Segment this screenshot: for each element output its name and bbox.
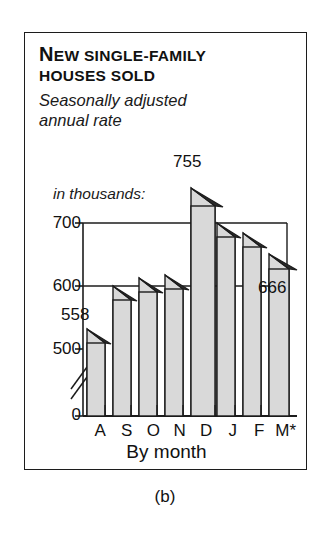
x-label-o: O <box>140 421 167 441</box>
y-tick-label-500: 500 <box>31 339 81 359</box>
x-axis-labels: A S O N D J F M* <box>87 421 299 441</box>
bar-N <box>165 275 189 416</box>
x-label-m: M* <box>273 421 300 441</box>
bar-A <box>87 329 111 416</box>
value-label-peak: 755 <box>173 152 201 172</box>
x-label-s: S <box>114 421 141 441</box>
x-label-d: D <box>193 421 220 441</box>
bar-S <box>113 286 137 416</box>
x-label-a: A <box>87 421 114 441</box>
y-tick-label-0: 0 <box>31 405 81 425</box>
value-label-last: 666 <box>258 278 286 298</box>
bar-F <box>243 233 267 416</box>
x-label-f: F <box>246 421 273 441</box>
x-axis-title: By month <box>25 441 308 463</box>
chart-panel: NEW SINGLE-FAMILY HOUSES SOLD Seasonally… <box>24 32 307 470</box>
bar-O <box>139 278 163 416</box>
figure-caption: (b) <box>0 487 330 507</box>
value-label-first: 558 <box>61 305 89 325</box>
y-tick-label-700: 700 <box>31 213 81 233</box>
y-tick-label-600: 600 <box>31 276 81 296</box>
x-label-j: J <box>220 421 247 441</box>
axis-break-icon <box>71 367 87 399</box>
x-label-n: N <box>167 421 194 441</box>
bar-J <box>217 223 241 416</box>
plot-area: 700 600 500 0 558 755 666 A S O N D J F … <box>25 33 308 471</box>
